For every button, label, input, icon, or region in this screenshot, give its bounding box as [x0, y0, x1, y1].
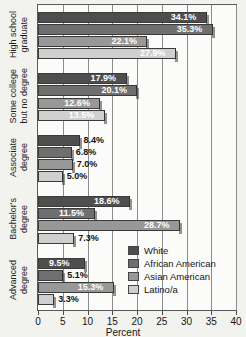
bar-rect [38, 135, 80, 146]
bar-value-label: 13.5% [69, 110, 95, 121]
x-tick-label-25: 25 [156, 316, 167, 327]
bar-rect [38, 294, 54, 305]
y-axis-label-line: Advanced [8, 260, 18, 300]
bar-value-label: 7.0% [77, 159, 98, 170]
x-axis-title: Percent [0, 327, 246, 337]
legend-swatch-icon [128, 259, 139, 268]
legend-swatch-icon [128, 285, 139, 294]
y-axis-label-line: graduate [19, 17, 29, 53]
bar-value-label: 28.7% [144, 220, 170, 231]
bar-rect [38, 171, 63, 182]
y-axis-label-line: Bachelor's [8, 198, 18, 240]
y-axis-label-4: Advanceddegree [0, 251, 37, 310]
legend: WhiteAfrican AmericanAsian AmericanLatin… [128, 244, 234, 295]
bar-group-2: 8.4%6.8%7.0%5.0% [38, 135, 236, 183]
legend-swatch-icon [128, 272, 139, 281]
y-axis-label-line: but no degree [19, 68, 29, 124]
y-axis-label-line: degree [19, 205, 29, 233]
x-tick-20 [137, 311, 138, 315]
y-axis-label-line: Some college [8, 69, 18, 124]
legend-label: African American [144, 258, 216, 269]
legend-item-1[interactable]: African American [128, 257, 234, 269]
x-tick-label-40: 40 [230, 316, 241, 327]
legend-label: White [144, 245, 168, 256]
x-tick-10 [88, 311, 89, 315]
x-tick-label-0: 0 [35, 316, 41, 327]
bar-chart: High schoolgraduateSome collegebut no de… [0, 0, 246, 337]
legend-item-0[interactable]: White [128, 244, 234, 256]
bar-value-label: 22.1% [111, 36, 137, 47]
x-tick-label-20: 20 [131, 316, 142, 327]
x-tick-label-35: 35 [206, 316, 217, 327]
bar-group-1: 17.9%20.1%12.6%13.5% [38, 73, 236, 121]
x-tick-label-15: 15 [107, 316, 118, 327]
y-axis-label-line: Associate [8, 138, 18, 177]
legend-label: Latino/a [144, 284, 178, 295]
x-tick-40 [236, 311, 237, 315]
y-axis-label-line: degree [19, 143, 29, 171]
bar-rect [38, 159, 73, 170]
bar-value-label: 18.6% [94, 196, 120, 207]
bar-value-label: 5.1% [67, 270, 88, 281]
bar-group-3: 18.6%11.5%28.7%7.3% [38, 196, 236, 244]
x-tick-5 [63, 311, 64, 315]
y-axis-label-3: Bachelor'sdegree [0, 189, 37, 248]
gridline-40 [236, 5, 237, 310]
y-axis-label-0: High schoolgraduate [0, 5, 37, 64]
bar-rect [38, 270, 63, 281]
bar-value-label: 6.8% [76, 147, 97, 158]
bar-value-label: 34.1% [171, 12, 197, 23]
legend-swatch-icon [128, 246, 139, 255]
bar-value-label: 3.3% [58, 294, 79, 305]
x-tick-15 [112, 311, 113, 315]
bar-value-label: 8.4% [84, 135, 105, 146]
x-tick-0 [38, 311, 39, 315]
x-tick-30 [187, 311, 188, 315]
x-tick-35 [211, 311, 212, 315]
y-axis-label-1: Some collegebut no degree [0, 67, 37, 126]
bar-value-label: 17.9% [91, 73, 117, 84]
x-tick-25 [162, 311, 163, 315]
bar-group-0: 34.1%35.3%22.1%27.9% [38, 12, 236, 60]
legend-label: Asian American [144, 271, 210, 282]
bar-value-label: 12.6% [64, 98, 90, 109]
bar-value-label: 7.3% [78, 233, 99, 244]
bar-value-label: 27.9% [140, 48, 166, 59]
bar-rect [38, 147, 72, 158]
bar-rect [38, 233, 74, 244]
x-tick-label-10: 10 [82, 316, 93, 327]
legend-item-2[interactable]: Asian American [128, 270, 234, 282]
bar-value-label: 20.1% [101, 85, 127, 96]
bar-value-label: 11.5% [59, 208, 84, 219]
x-tick-label-30: 30 [181, 316, 192, 327]
bar-value-label: 15.3% [78, 282, 104, 293]
y-axis-label-line: High school [8, 11, 18, 58]
bar-value-label: 5.0% [67, 171, 88, 182]
bar-value-label: 9.5% [49, 258, 70, 269]
y-axis-label-2: Associatedegree [0, 128, 37, 187]
bar-value-label: 35.3% [177, 24, 203, 35]
y-axis-label-line: degree [19, 266, 29, 294]
x-tick-label-5: 5 [60, 316, 66, 327]
legend-item-3[interactable]: Latino/a [128, 283, 234, 295]
